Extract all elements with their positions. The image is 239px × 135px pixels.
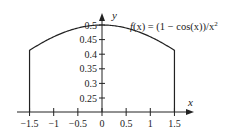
- y-axis-label: y: [111, 9, 117, 21]
- y-tick-label: 0.3: [85, 78, 98, 89]
- y-ticks: 0.250.30.350.40.450.5: [80, 20, 106, 104]
- x-axis-arrow-icon: [186, 109, 194, 115]
- y-tick-label: 0.45: [80, 34, 98, 45]
- x-tick-label: 0.5: [120, 118, 133, 129]
- x-tick-label: 1: [148, 118, 153, 129]
- x-tick-label: 0: [100, 118, 105, 129]
- formula-superscript: 2: [214, 20, 218, 28]
- x-tick-label: 1.5: [168, 118, 181, 129]
- y-tick-label: 0.4: [85, 49, 98, 60]
- x-tick-label: −1: [48, 118, 59, 129]
- chart: −1.5−1−0.500.511.5 0.250.30.350.40.450.5…: [0, 0, 239, 135]
- x-axis-label: x: [187, 96, 193, 108]
- x-ticks: −1.5−1−0.500.511.5: [20, 108, 180, 129]
- x-tick-label: −0.5: [69, 118, 87, 129]
- formula-annotation: f(x) = (1 − cos(x))/x2: [130, 20, 218, 33]
- formula-body: (x) = (1 − cos(x))/x: [133, 21, 215, 33]
- y-axis-arrow-icon: [99, 13, 105, 21]
- x-tick-label: −1.5: [20, 118, 38, 129]
- y-tick-label: 0.25: [80, 93, 98, 104]
- y-tick-label: 0.35: [80, 63, 98, 74]
